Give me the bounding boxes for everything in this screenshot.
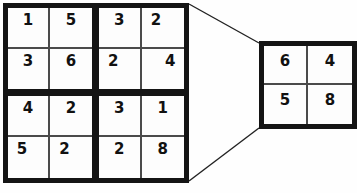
detail-2x2-grid: 6 4 5 8 bbox=[259, 41, 357, 129]
cell-value: 3 bbox=[114, 13, 124, 28]
cell-value: 5 bbox=[17, 142, 27, 157]
grid-cell: 8 bbox=[142, 137, 185, 178]
cell-value: 2 bbox=[108, 54, 118, 69]
grid-cell: 6 bbox=[50, 49, 92, 90]
cell-value: 3 bbox=[23, 54, 33, 69]
grid-cell: 3 bbox=[8, 49, 50, 90]
grid-cell: 2 bbox=[99, 49, 142, 90]
quadrant-bottom-right: 3 1 2 8 bbox=[96, 93, 184, 178]
grid-cell: 1 bbox=[142, 96, 185, 137]
cell-value: 6 bbox=[66, 54, 76, 69]
cell-value: 5 bbox=[280, 93, 290, 108]
cell-value: 2 bbox=[114, 142, 124, 157]
diagram-canvas: 1 5 3 6 3 2 2 4 bbox=[0, 0, 357, 193]
cell-value: 6 bbox=[280, 54, 290, 69]
detail-cell: 6 bbox=[264, 46, 308, 85]
cell-value: 4 bbox=[325, 54, 335, 69]
grid-cell: 1 bbox=[8, 8, 50, 49]
detail-cell: 4 bbox=[308, 46, 352, 85]
cell-value: 4 bbox=[23, 101, 33, 116]
cell-value: 2 bbox=[59, 142, 69, 157]
quadrant-bottom-left: 4 2 5 2 bbox=[8, 93, 96, 178]
grid-cell: 3 bbox=[99, 8, 142, 49]
grid-cell: 2 bbox=[99, 137, 142, 178]
cell-value: 5 bbox=[66, 13, 76, 28]
cell-value: 1 bbox=[158, 101, 168, 116]
grid-cell: 2 bbox=[142, 8, 185, 49]
detail-cell: 5 bbox=[264, 85, 308, 124]
grid-cell: 2 bbox=[50, 137, 92, 178]
cell-value: 4 bbox=[165, 54, 175, 69]
grid-cell: 5 bbox=[50, 8, 92, 49]
quadrant-top-right: 3 2 2 4 bbox=[96, 8, 184, 93]
main-4x4-grid: 1 5 3 6 3 2 2 4 bbox=[3, 3, 189, 183]
cell-value: 1 bbox=[23, 13, 33, 28]
upper-callout-line bbox=[189, 4, 259, 43]
detail-cell: 8 bbox=[308, 85, 352, 124]
quadrant-top-left: 1 5 3 6 bbox=[8, 8, 96, 93]
cell-value: 2 bbox=[66, 101, 76, 116]
grid-cell: 4 bbox=[8, 96, 50, 137]
grid-cell: 4 bbox=[142, 49, 185, 90]
cell-value: 2 bbox=[151, 13, 161, 28]
lower-callout-line bbox=[189, 128, 259, 181]
cell-value: 8 bbox=[158, 142, 168, 157]
grid-cell: 3 bbox=[99, 96, 142, 137]
grid-cell: 2 bbox=[50, 96, 92, 137]
cell-value: 3 bbox=[114, 101, 124, 116]
grid-cell: 5 bbox=[8, 137, 50, 178]
cell-value: 8 bbox=[325, 93, 335, 108]
